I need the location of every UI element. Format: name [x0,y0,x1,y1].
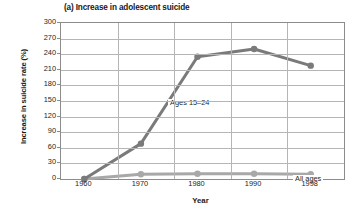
x-axis-tick-label: 1998 [290,180,330,187]
data-point-marker [308,62,314,68]
data-point-marker [251,46,257,52]
y-axis-tick-mark [57,162,60,163]
y-axis-tick-mark [57,38,60,39]
y-axis-tick-mark [57,22,60,23]
vertical-gridline [118,23,119,179]
y-axis-tick-mark [57,84,60,85]
plot-area: Ages 15–24 All ages [60,22,345,180]
y-axis-tick-label: 60 [32,143,56,150]
horizontal-gridline [61,117,344,118]
y-axis-tick-mark [57,147,60,148]
x-axis-title: Year [0,196,361,205]
y-axis-tick-label: 270 [32,34,56,41]
x-axis-tick-label: 1970 [120,180,160,187]
horizontal-gridline [61,132,344,133]
y-axis-tick-label: 30 [32,158,56,165]
y-axis-title: Increase in suicide rate (%) [19,22,28,172]
y-axis-tick-mark [57,116,60,117]
vertical-gridline [174,23,175,179]
y-axis-tick-label: 210 [32,65,56,72]
data-point-marker [194,171,200,177]
horizontal-gridline [61,54,344,55]
horizontal-gridline [61,85,344,86]
y-axis-tick-label: 300 [32,18,56,25]
chart-title: (a) Increase in adolescent suicide [64,3,190,12]
data-point-marker [251,171,257,177]
horizontal-gridline [61,163,344,164]
y-axis-tick-mark [57,131,60,132]
horizontal-gridline [61,70,344,71]
x-axis-tick-labels: 19601970198019901998 [0,180,361,194]
y-axis-tick-label: 90 [32,127,56,134]
vertical-gridline [231,23,232,179]
y-axis-tick-mark [57,100,60,101]
y-axis-tick-mark [57,69,60,70]
vertical-gridline [287,23,288,179]
horizontal-gridline [61,148,344,149]
data-point-marker [138,171,144,177]
y-axis-tick-label: 180 [32,80,56,87]
x-axis-tick-label: 1980 [177,180,217,187]
horizontal-gridline [61,39,344,40]
y-axis-tick-label: 120 [32,112,56,119]
y-axis-tick-mark [57,53,60,54]
y-axis-tick-label: 150 [32,96,56,103]
chart-figure: (a) Increase in adolescent suicide Incre… [0,0,361,216]
y-axis-tick-label: 240 [32,49,56,56]
horizontal-gridline [61,101,344,102]
x-axis-tick-label: 1990 [233,180,273,187]
y-axis-tick-mark [57,178,60,179]
data-point-marker [138,140,144,146]
x-axis-tick-label: 1960 [63,180,103,187]
y-axis-tick-labels: 0306090120150180210240270300 [30,22,56,178]
